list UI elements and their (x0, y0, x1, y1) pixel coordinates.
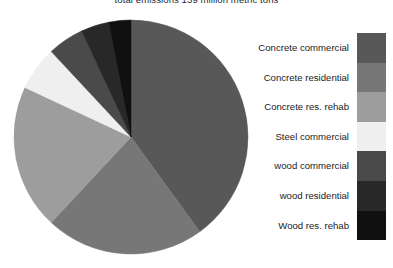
legend-item-label: wood residential (280, 191, 357, 201)
legend-item-label: Wood res. rehab (278, 221, 357, 231)
pie-chart-figure: total emissions 139 million metric tons … (0, 0, 393, 268)
legend-color-swatch (357, 151, 386, 181)
legend-item-label: Steel commercial (275, 132, 357, 142)
legend-item-label: Concrete residential (264, 73, 357, 83)
legend-item-label: Concrete commercial (258, 43, 357, 53)
legend-item[interactable]: Concrete commercial (236, 33, 386, 63)
chart-legend: Concrete commercialConcrete residentialC… (236, 33, 386, 241)
legend-item[interactable]: Steel commercial (236, 122, 386, 152)
legend-color-swatch (357, 211, 386, 241)
legend-color-swatch (357, 92, 386, 122)
legend-color-swatch (357, 33, 386, 63)
legend-item-label: Concrete res. rehab (264, 102, 357, 112)
legend-item-label: wood commercial (274, 161, 357, 171)
legend-item[interactable]: wood residential (236, 181, 386, 211)
legend-color-swatch (357, 122, 386, 152)
legend-item[interactable]: Concrete res. rehab (236, 92, 386, 122)
legend-item[interactable]: Concrete residential (236, 63, 386, 93)
legend-color-swatch (357, 63, 386, 93)
legend-item[interactable]: Wood res. rehab (236, 211, 386, 241)
pie-svg (0, 0, 260, 268)
pie-plot-area (0, 0, 260, 268)
legend-item[interactable]: wood commercial (236, 151, 386, 181)
legend-color-swatch (357, 181, 386, 211)
